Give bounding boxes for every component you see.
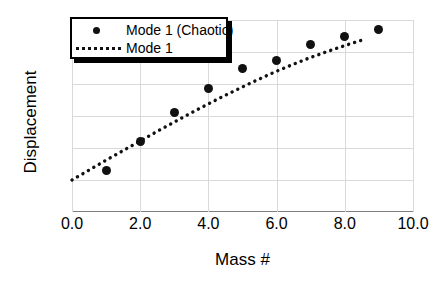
y-axis-title: Displacement xyxy=(21,37,41,207)
data-point xyxy=(238,64,247,73)
x-axis-title: Mass # xyxy=(72,250,413,270)
legend-entry-mode-1: Mode 1 xyxy=(72,39,226,57)
x-tick-label: 2.0 xyxy=(110,216,170,232)
gridline-vertical xyxy=(413,20,414,212)
data-point xyxy=(136,137,145,146)
marker-dot-key-icon xyxy=(72,22,126,38)
x-tick-label: 0.0 xyxy=(42,216,102,232)
x-tick-label: 8.0 xyxy=(315,216,375,232)
data-point xyxy=(102,166,111,175)
legend-entry-mode-1-chaotic: Mode 1 (Chaotic) xyxy=(72,21,226,39)
dotted-line-key-icon xyxy=(72,40,126,56)
x-tick-label: 10.0 xyxy=(383,216,443,232)
chart-figure: Displacement Mass # 0.50.40.30.20.10.0-0… xyxy=(0,0,443,284)
legend-label: Mode 1 (Chaotic) xyxy=(126,22,233,38)
legend-label: Mode 1 xyxy=(126,40,173,56)
x-tick-label: 4.0 xyxy=(178,216,238,232)
chart-legend: Mode 1 (Chaotic) Mode 1 xyxy=(70,17,228,59)
x-tick-label: 6.0 xyxy=(247,216,307,232)
